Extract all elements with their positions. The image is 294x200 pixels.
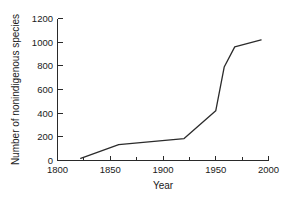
x-tick-label-1850: 1850 — [100, 164, 121, 175]
x-tick-label-1800: 1800 — [47, 164, 68, 175]
y-axis-title: Number of nonindigenous species — [10, 14, 21, 165]
y-tick-label-1000: 1000 — [32, 37, 53, 48]
data-line-nonindigenous-species — [81, 40, 261, 159]
y-tick-label-200: 200 — [37, 131, 53, 142]
line-chart-canvas: 1200 1000 800 600 400 200 0 1800 1850 19… — [0, 0, 294, 200]
x-tick-label-2000: 2000 — [258, 164, 279, 175]
y-tick-label-400: 400 — [37, 108, 53, 119]
x-axis-major-ticks — [58, 156, 269, 161]
y-tick-label-600: 600 — [37, 84, 53, 95]
chart-figure: 1200 1000 800 600 400 200 0 1800 1850 19… — [0, 0, 294, 200]
x-tick-label-1900: 1900 — [152, 164, 173, 175]
y-tick-label-800: 800 — [37, 60, 53, 71]
x-axis-title: Year — [153, 180, 174, 191]
x-tick-label-1950: 1950 — [205, 164, 226, 175]
y-tick-label-1200: 1200 — [32, 13, 53, 24]
y-axis-ticks — [58, 19, 63, 137]
